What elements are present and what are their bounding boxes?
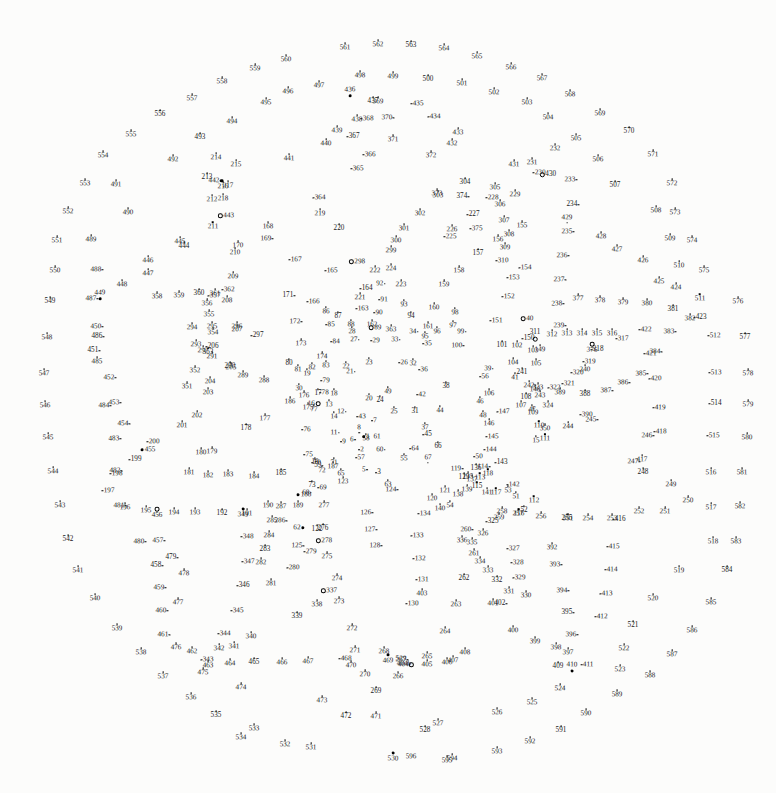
dot-number-label: 549 <box>45 298 56 305</box>
dot-number-label: 219 <box>315 210 326 217</box>
dot-point: 430 <box>540 171 556 178</box>
dot-stack: 584 <box>722 565 733 574</box>
dot-number-label: 81 <box>294 366 301 373</box>
dot-point: 388 <box>580 389 591 398</box>
dot-point: 558 <box>217 76 228 86</box>
dot-point: 566 <box>506 62 517 72</box>
dot-stack: 510 <box>674 260 685 270</box>
dot-point: 9 <box>340 438 346 446</box>
dot-marker <box>338 432 340 434</box>
dot-marker <box>397 489 399 491</box>
dot-point: 153 <box>506 274 519 282</box>
dot-stack: 448 <box>117 279 128 289</box>
dot-stack: 558 <box>217 76 228 86</box>
dot-point: 455 <box>141 446 156 454</box>
dot-number-label: 297 <box>253 332 264 339</box>
dot-number-label: 513 <box>711 369 722 376</box>
dot-point: 111 <box>540 433 550 443</box>
dot-point: 467 <box>303 656 314 666</box>
dot-number-label: 145 <box>488 433 499 440</box>
dot-point: 72 <box>318 465 325 474</box>
dot-stack: 106 <box>484 388 495 398</box>
dot-stack: 248 <box>638 467 649 476</box>
dot-number-label: 139 <box>462 486 473 493</box>
dot-stack: 241 <box>517 367 528 376</box>
dot-point: 33 <box>391 336 401 344</box>
dot-stack: 371 <box>388 134 399 144</box>
dot-number-label: 197 <box>104 487 115 494</box>
dot-stack: 376 <box>587 342 598 355</box>
dot-stack: 67 <box>424 454 431 463</box>
dot-number-label: 520 <box>648 595 659 602</box>
dot-number-label: 451 <box>87 347 98 354</box>
dot-number-label: 461 <box>157 631 168 638</box>
dot-stack: 202 <box>192 410 203 420</box>
dot-point: 399 <box>530 636 541 646</box>
dot-point: 12 <box>337 408 347 416</box>
dot-number-label: 421 <box>646 350 657 357</box>
dot-number-label: 163 <box>358 305 369 312</box>
dot-number-label: 447 <box>143 270 154 277</box>
dot-number-label: 310 <box>498 257 509 264</box>
dot-number-label: 273 <box>334 598 345 605</box>
dot-point: 54 <box>446 500 453 510</box>
dot-point: 411 <box>581 661 594 669</box>
dot-point: 299 <box>386 245 397 255</box>
dot-point: 517 <box>706 502 717 512</box>
dot-number-label: 452 <box>103 374 114 381</box>
dot-stack: 203 <box>203 387 214 397</box>
dot-stack: 498 <box>355 70 366 80</box>
dot-point: 10 <box>311 457 318 466</box>
dot-stack: 313 <box>562 328 573 338</box>
dot-point: 561 <box>340 42 351 52</box>
dot-point: 147 <box>496 408 509 416</box>
dot-point: 269 <box>371 686 382 695</box>
dot-number-label: 334 <box>475 558 486 565</box>
dot-point: 528 <box>420 725 431 734</box>
dot-marker <box>354 439 356 441</box>
dot-stack: 73 <box>308 480 315 489</box>
dot-number-label: 393 <box>549 561 560 568</box>
dot-stack: 141 <box>482 487 493 497</box>
dot-number-label: 363 <box>386 326 397 333</box>
dot-point: 545 <box>43 432 54 442</box>
dot-point: 475 <box>198 667 209 677</box>
dot-point: 454 <box>117 420 130 428</box>
dot-point: 403 <box>417 588 428 598</box>
dot-number-label: 209 <box>228 273 239 280</box>
dot-number-label: 236 <box>556 252 567 259</box>
dot-point: 387 <box>600 387 613 395</box>
dot-point: 124 <box>385 486 398 494</box>
dot-point: 56 <box>479 373 489 381</box>
dot-stack: 531 <box>306 742 317 752</box>
dot-point: 40 <box>521 315 534 323</box>
dot-point: 421 <box>643 350 656 358</box>
dot-number-label: 431 <box>509 161 520 168</box>
dot-stack: 194 <box>169 507 180 517</box>
dot-point: 422 <box>638 326 651 334</box>
dot-stack: 477 <box>173 597 184 607</box>
dot-number-label: 445 <box>175 238 186 245</box>
dot-number-label: 578 <box>743 370 754 377</box>
dot-stack: 469 <box>383 653 394 664</box>
dot-point: 584 <box>722 565 733 574</box>
dot-stack: 381 <box>668 304 679 313</box>
dot-number-label: 161 <box>423 323 434 330</box>
dot-number-label: 91 <box>380 296 387 303</box>
dot-point: 548 <box>42 332 53 342</box>
dot-point: 539 <box>112 623 123 633</box>
dot-point: 76 <box>301 426 311 434</box>
dot-point: 512 <box>707 332 720 340</box>
dot-point: 461 <box>157 631 170 639</box>
dot-point: 433 <box>453 127 464 137</box>
dot-point: 476 <box>171 642 182 652</box>
dot-number-label: 486 <box>91 333 102 340</box>
dot-stack: 576 <box>733 296 744 306</box>
dot-number-label: 543 <box>55 502 66 509</box>
dot-stack: 284 <box>264 530 275 540</box>
dot-point: 183 <box>223 469 234 479</box>
dot-stack: 373 <box>432 188 443 198</box>
dot-point: 332 <box>492 575 503 584</box>
dot-marker <box>164 540 166 542</box>
dot-stack: 324 <box>543 400 554 410</box>
